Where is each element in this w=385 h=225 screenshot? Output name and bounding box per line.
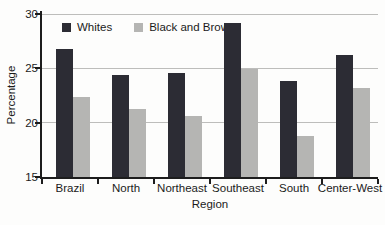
x-category-label-brazil: Brazil — [56, 182, 85, 194]
x-axis-title: Region — [192, 198, 228, 210]
y-tick-label-25: 25 — [12, 62, 38, 74]
legend-item-black-and-brown: Black and Brown — [134, 21, 235, 33]
x-tick-1 — [97, 179, 99, 184]
y-tick-label-15: 15 — [12, 171, 38, 183]
plot-area: Whites Black and Brown — [42, 14, 378, 177]
legend-label-whites: Whites — [77, 21, 112, 33]
bar-whites-southeast — [224, 23, 241, 177]
bar-black-and-brown-northeast — [185, 116, 202, 177]
y-tick-label-20: 20 — [12, 117, 38, 129]
x-category-label-south: South — [279, 182, 309, 194]
bar-black-and-brown-southeast — [241, 69, 258, 177]
bar-whites-brazil — [56, 49, 73, 177]
legend-label-black-and-brown: Black and Brown — [149, 21, 235, 33]
black-and-brown-swatch-icon — [134, 23, 143, 32]
x-category-label-northeast: Northeast — [157, 182, 207, 194]
y-tick-label-30: 30 — [12, 8, 38, 20]
x-tick-3 — [209, 179, 211, 184]
bar-whites-center-west — [336, 55, 353, 177]
bar-black-and-brown-brazil — [73, 97, 90, 177]
bar-whites-northeast — [168, 73, 185, 177]
gridline-20 — [42, 122, 378, 123]
x-tick-0 — [41, 179, 43, 184]
x-tick-4 — [265, 179, 267, 184]
x-category-label-north: North — [112, 182, 140, 194]
y-axis-title: Percentage — [5, 66, 17, 125]
bar-whites-south — [280, 81, 297, 177]
x-category-label-southeast: Southeast — [212, 182, 264, 194]
x-tick-2 — [153, 179, 155, 184]
bar-black-and-brown-south — [297, 136, 314, 177]
whites-swatch-icon — [62, 23, 71, 32]
gridline-30 — [42, 14, 378, 15]
bar-black-and-brown-center-west — [353, 88, 370, 177]
bar-black-and-brown-north — [129, 109, 146, 177]
x-category-label-center-west: Center-West — [318, 182, 382, 194]
gridline-25 — [42, 68, 378, 69]
bar-chart: Whites Black and Brown Percentage Region… — [0, 0, 385, 225]
legend-item-whites: Whites — [62, 21, 112, 33]
legend: Whites Black and Brown — [62, 21, 235, 33]
bar-whites-north — [112, 75, 129, 177]
